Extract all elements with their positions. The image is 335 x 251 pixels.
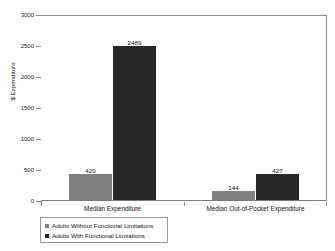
legend-label-with-limitations: Adults With Functional Limitations <box>52 232 145 239</box>
y-axis-tick-label-0: 0 <box>0 198 34 204</box>
bar-median-expenditure-without-limitations[interactable] <box>69 174 112 200</box>
y-axis-tick-label-3000: 3000 <box>0 12 34 18</box>
bar-value-label-144: 144 <box>212 184 255 191</box>
bar-value-label-2489: 2489 <box>113 39 156 46</box>
legend-swatch-icon-dark <box>45 234 49 238</box>
legend-swatch-icon-light <box>45 224 49 228</box>
category-label-out-of-pocket-expenditure: Median Out-of-Pocket Expenditure <box>184 205 327 213</box>
legend: Adults Without Functional Limitations Ad… <box>40 217 168 243</box>
legend-label-without-limitations: Adults Without Functional Limitations <box>52 222 153 229</box>
y-axis-tick-label-1500: 1500 <box>0 105 34 111</box>
legend-item-without-limitations[interactable]: Adults Without Functional Limitations <box>45 221 167 230</box>
y-axis-tick-label-1000: 1000 <box>0 136 34 142</box>
y-axis-tick-label-500: 500 <box>0 167 34 173</box>
plot-area: 420 2489 144 427 <box>41 15 327 201</box>
y-axis-tick-label-2000: 2000 <box>0 74 34 80</box>
bar-value-label-420: 420 <box>69 167 112 174</box>
legend-item-with-limitations[interactable]: Adults With Functional Limitations <box>45 231 167 240</box>
category-label-median-expenditure: Median Expenditure <box>41 205 184 213</box>
y-axis-tick-label-2500: 2500 <box>0 43 34 49</box>
bar-chart-figure: $ Expenditure 050010001500200025003000 4… <box>0 0 335 251</box>
bar-median-expenditure-with-limitations[interactable] <box>113 46 156 200</box>
bar-out-of-pocket-with-limitations[interactable] <box>256 174 299 200</box>
bar-out-of-pocket-without-limitations[interactable] <box>212 191 255 200</box>
bar-value-label-427: 427 <box>256 167 299 174</box>
